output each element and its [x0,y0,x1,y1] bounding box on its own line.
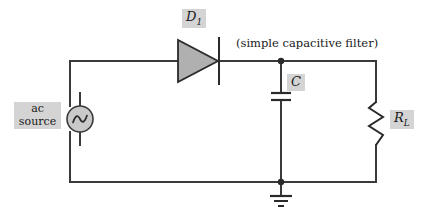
diode-label: D1 [182,9,206,28]
circuit-diagram-figure: D1 C RL acsource (simple capacitive filt… [0,0,427,220]
capacitor-label: C [287,74,305,91]
resistor-zigzag [369,102,383,145]
filter-caption: (simple capacitive filter) [236,36,378,50]
ground-symbol [270,196,292,206]
node-dot-ground [278,179,284,185]
circuit-schematic-svg [0,0,427,220]
ac-source-label-line1: ac [31,102,44,115]
diode-symbol [178,37,219,85]
diode-label-letter: D [186,9,196,24]
resistor-symbol [369,102,383,145]
diode-triangle [178,40,218,82]
node-dot-output [278,58,284,64]
resistor-label: RL [390,110,414,129]
capacitor-symbol [271,93,291,100]
ac-source-label: acsource [14,102,61,129]
diode-label-subscript: 1 [196,17,202,27]
resistor-label-subscript: L [404,118,410,128]
resistor-label-letter: R [394,110,404,125]
ac-source-label-line2: source [19,115,56,128]
